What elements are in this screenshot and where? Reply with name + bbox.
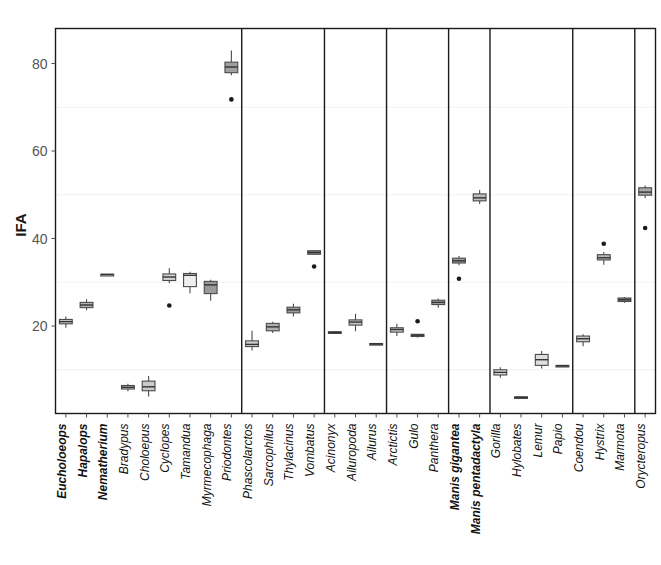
box xyxy=(204,281,217,293)
box-plot xyxy=(597,241,610,264)
box-plot xyxy=(80,299,93,310)
x-axis-category-label: Gulo xyxy=(407,423,421,449)
x-axis-category-label: Phascolarctos xyxy=(241,424,255,499)
box-plot xyxy=(142,376,155,397)
box-plot xyxy=(59,316,72,327)
x-axis-category-label: Lemur xyxy=(531,422,545,457)
x-axis-category-label: Myrmecophaga xyxy=(200,423,214,506)
x-axis-category-label: Tamandua xyxy=(179,423,193,480)
box-plot xyxy=(308,250,321,268)
x-axis-category-label: Vombatus xyxy=(303,424,317,478)
box-plot xyxy=(473,190,486,204)
box-plot xyxy=(618,297,631,303)
x-axis-category-label: Hapalops xyxy=(76,423,90,477)
x-axis-category-label: Nematherium xyxy=(96,423,110,500)
outlier-point xyxy=(457,276,462,281)
x-axis-category-label: Manis pentadactyla xyxy=(469,423,483,534)
outlier-point xyxy=(643,226,648,231)
x-axis-category-label: Sarcophilus xyxy=(262,424,276,487)
y-tick-label: 20 xyxy=(32,318,48,334)
outlier-point xyxy=(312,264,317,269)
y-axis-ticks: 20406080 xyxy=(32,56,56,335)
box-plot xyxy=(225,50,238,101)
panel-separators xyxy=(242,29,635,414)
y-tick-label: 60 xyxy=(32,143,48,159)
box-plot xyxy=(246,331,259,351)
box-plot xyxy=(390,324,403,336)
box-plot xyxy=(432,298,445,307)
box xyxy=(142,381,155,391)
box-plot xyxy=(204,280,217,301)
y-tick-label: 40 xyxy=(32,231,48,247)
y-axis-title: IFA xyxy=(12,213,29,237)
box-plot xyxy=(328,331,341,334)
outlier-point xyxy=(229,97,234,102)
box-plot xyxy=(453,256,466,281)
x-axis-category-label: Bradypus xyxy=(117,424,131,475)
box-plot xyxy=(535,351,548,369)
box-plot xyxy=(494,367,507,378)
x-axis-category-label: Hystrix xyxy=(593,423,607,461)
x-axis-category-label: Ailuropoda xyxy=(345,423,359,482)
x-axis-category-label: Cyclopes xyxy=(158,424,172,473)
x-axis-category-label: Thylacinus xyxy=(282,424,296,481)
x-axis-category-label: Arctictis xyxy=(386,424,400,467)
x-axis-category-label: Coendou xyxy=(572,423,586,472)
x-axis-labels: EucholoeopsHapalopsNematheriumBradypusCh… xyxy=(55,422,648,534)
x-axis-category-label: Choloepus xyxy=(138,424,152,481)
box-plot xyxy=(101,274,114,276)
x-axis-category-label: Marmota xyxy=(613,423,627,471)
outlier-point xyxy=(415,319,420,324)
outlier-point xyxy=(167,303,172,308)
x-axis-category-label: Gorilla xyxy=(489,423,503,458)
box-plot xyxy=(515,397,528,399)
x-axis-category-label: Orycteropus xyxy=(634,424,648,489)
plot-frame xyxy=(56,29,656,414)
boxplot-figure: 20406080 EucholoeopsHapalopsNematheriumB… xyxy=(0,0,661,565)
box-plot xyxy=(411,319,424,337)
box-plot xyxy=(266,322,279,333)
x-axis-category-label: Acinonyx xyxy=(324,423,338,474)
box-plot xyxy=(163,268,176,307)
x-axis-category-label: Papio xyxy=(551,423,565,454)
box-plot xyxy=(287,304,300,317)
x-axis-category-label: Ailurus xyxy=(365,424,379,462)
y-tick-label: 80 xyxy=(32,56,48,72)
box-plot xyxy=(639,186,652,231)
box-plot xyxy=(577,334,590,346)
box-plot xyxy=(370,344,383,346)
box-plot xyxy=(349,314,362,332)
x-axis-category-label: Panthera xyxy=(427,423,441,472)
x-axis-category-label: Hylobates xyxy=(510,424,524,477)
box-plot xyxy=(556,365,569,367)
x-axis-category-label: Manis gigantea xyxy=(448,423,462,510)
chart-svg: 20406080 EucholoeopsHapalopsNematheriumB… xyxy=(0,0,661,565)
box-plot xyxy=(122,384,135,391)
box-plots xyxy=(59,50,651,398)
x-axis-category-label: Priodontes xyxy=(220,424,234,481)
x-axis-category-label: Eucholoeops xyxy=(55,423,69,499)
box-plot xyxy=(184,272,197,293)
outlier-point xyxy=(601,241,606,246)
